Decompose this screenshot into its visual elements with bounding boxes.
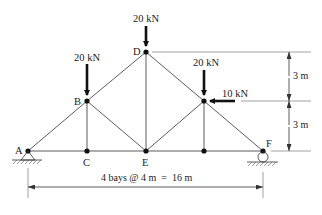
node-F [260,148,265,153]
label-C: C [83,157,90,168]
node-upper-right [201,98,206,103]
dimension-lower-height: 3 m [289,101,309,151]
load-upper-right-vertical: 20 kN [193,57,219,95]
svg-text:4 bays @ 4 m = 16 m: 4 bays @ 4 m = 16 m [101,172,192,183]
load-D: 20 kN [133,13,159,46]
dimension-span: 4 bays @ 4 m = 16 m [28,168,263,198]
svg-text:20 kN: 20 kN [193,57,219,68]
node-C [84,148,89,153]
node-B [84,98,89,103]
member-E-G [146,101,204,151]
dimension-upper-height: 3 m [289,52,309,101]
node-lower-right [201,148,206,153]
member-A-B [28,101,87,151]
load-upper-right-horizontal: 10 kN [210,88,248,101]
svg-text:20 kN: 20 kN [74,52,100,63]
svg-text:3 m: 3 m [293,119,309,130]
svg-text:10 kN: 10 kN [222,88,248,99]
label-D: D [133,46,141,57]
node-D [143,49,148,54]
truss-diagram: A B C D E F 20 k [0,0,322,215]
label-B: B [74,96,81,107]
node-E [143,148,148,153]
svg-text:20 kN: 20 kN [133,13,159,24]
member-B-E [87,101,146,151]
svg-text:3 m: 3 m [293,70,309,81]
label-F: F [266,138,272,149]
member-G-F [204,101,263,151]
load-B: 20 kN [74,52,100,95]
label-E: E [142,157,148,168]
roller-support-icon [247,152,278,166]
label-A: A [15,145,23,156]
